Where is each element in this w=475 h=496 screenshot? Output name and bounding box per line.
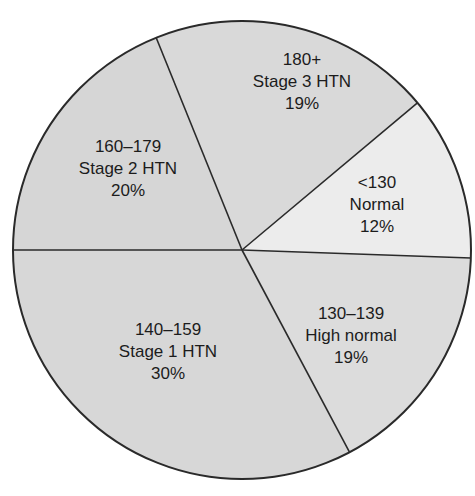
slice-label-stage2: 160–179 Stage 2 HTN 20%: [79, 136, 177, 202]
slice-range: <130: [350, 172, 405, 194]
slice-category: High normal: [305, 325, 397, 347]
slice-category: Stage 3 HTN: [253, 71, 351, 93]
slice-range: 160–179: [79, 136, 177, 158]
slice-label-stage1: 140–159 Stage 1 HTN 30%: [119, 319, 217, 385]
slice-range: 180+: [253, 49, 351, 71]
slice-label-stage3: 180+ Stage 3 HTN 19%: [253, 49, 351, 115]
slice-range: 140–159: [119, 319, 217, 341]
slice-label-high-normal: 130–139 High normal 19%: [305, 303, 397, 369]
slice-percent: 30%: [119, 363, 217, 385]
slice-category: Normal: [350, 194, 405, 216]
slice-percent: 19%: [305, 347, 397, 369]
slice-percent: 20%: [79, 180, 177, 202]
slice-label-normal: <130 Normal 12%: [350, 172, 405, 238]
pie-chart: [0, 0, 475, 496]
slice-category: Stage 1 HTN: [119, 341, 217, 363]
slice-percent: 19%: [253, 93, 351, 115]
slice-category: Stage 2 HTN: [79, 158, 177, 180]
slice-range: 130–139: [305, 303, 397, 325]
slice-percent: 12%: [350, 216, 405, 238]
